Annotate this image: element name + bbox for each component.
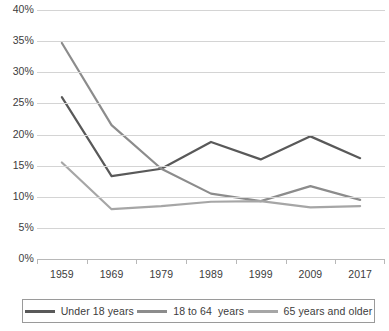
legend-item[interactable]: Under 18 years <box>25 305 134 317</box>
y-axis-tick-label: 0% <box>2 253 34 264</box>
x-axis-tick-label: 2009 <box>286 268 336 280</box>
gridline <box>37 103 385 104</box>
y-axis-tick-label: 30% <box>2 66 34 77</box>
gridline <box>37 10 385 11</box>
x-axis-tick-mark <box>37 259 38 264</box>
x-axis-tick-label: 2017 <box>335 268 385 280</box>
legend-swatch-icon <box>137 310 167 313</box>
x-axis-tick-label: 1959 <box>37 268 87 280</box>
x-axis-tick-mark <box>136 259 137 264</box>
x-axis-tick-label: 1999 <box>236 268 286 280</box>
x-axis-tick-mark <box>384 259 385 264</box>
gridline <box>37 135 385 136</box>
x-axis-tick-mark <box>335 259 336 264</box>
gridline <box>37 166 385 167</box>
y-axis-tick-label: 15% <box>2 160 34 171</box>
chart-legend: Under 18 years18 to 64 years65 years and… <box>22 299 375 323</box>
x-axis-tick-mark <box>286 259 287 264</box>
gridline <box>37 72 385 73</box>
x-axis-line <box>37 259 385 260</box>
y-axis-tick-label: 25% <box>2 97 34 108</box>
x-axis-tick-mark <box>236 259 237 264</box>
legend-item[interactable]: 18 to 64 years <box>137 305 244 317</box>
gridline <box>37 197 385 198</box>
x-axis: 1959196919791989199920092017 <box>37 259 385 285</box>
y-axis: 40%35%30%25%20%15%10%5%0% <box>0 0 34 270</box>
x-axis-tick-mark <box>186 259 187 264</box>
y-axis-tick-label: 40% <box>2 4 34 15</box>
y-axis-tick-label: 5% <box>2 222 34 233</box>
series-line <box>62 43 360 201</box>
y-axis-tick-label: 10% <box>2 191 34 202</box>
x-axis-tick-mark <box>87 259 88 264</box>
legend-label: 65 years and older <box>284 305 373 317</box>
legend-swatch-icon <box>25 310 55 313</box>
gridline <box>37 228 385 229</box>
y-axis-tick-label: 35% <box>2 35 34 46</box>
y-axis-tick-label: 20% <box>2 129 34 140</box>
x-axis-tick-label: 1969 <box>87 268 137 280</box>
gridline <box>37 41 385 42</box>
plot-area <box>37 10 385 259</box>
x-axis-tick-label: 1989 <box>186 268 236 280</box>
x-axis-tick-label: 1979 <box>136 268 186 280</box>
legend-swatch-icon <box>248 310 278 313</box>
series-line <box>62 97 360 176</box>
legend-item[interactable]: 65 years and older <box>248 305 373 317</box>
line-chart: 40%35%30%25%20%15%10%5%0% 19591969197919… <box>0 0 389 331</box>
legend-label: 18 to 64 years <box>173 305 244 317</box>
legend-label: Under 18 years <box>61 305 134 317</box>
